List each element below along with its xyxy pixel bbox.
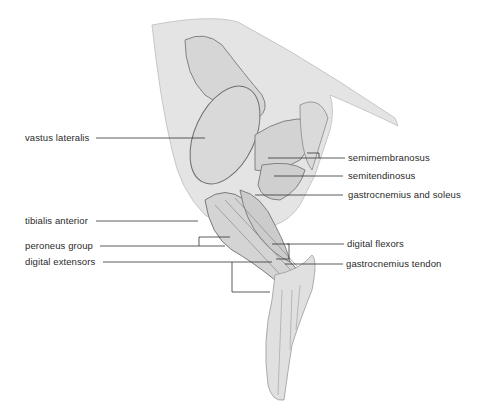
- label-digital-flexors: digital flexors: [347, 238, 404, 249]
- label-tibialis-anterior: tibialis anterior: [25, 215, 88, 226]
- label-vastus-lateralis: vastus lateralis: [25, 132, 89, 143]
- label-gastrocnemius-and-soleus: gastrocnemius and soleus: [348, 189, 461, 200]
- label-digital-extensors: digital extensors: [25, 256, 95, 267]
- label-peroneus-group: peroneus group: [25, 240, 93, 251]
- label-semitendinosus: semitendinosus: [348, 170, 415, 181]
- leg-illustration: [0, 0, 484, 414]
- label-gastrocnemius-tendon: gastrocnemius tendon: [346, 258, 441, 269]
- label-semimembranosus: semimembranosus: [348, 152, 430, 163]
